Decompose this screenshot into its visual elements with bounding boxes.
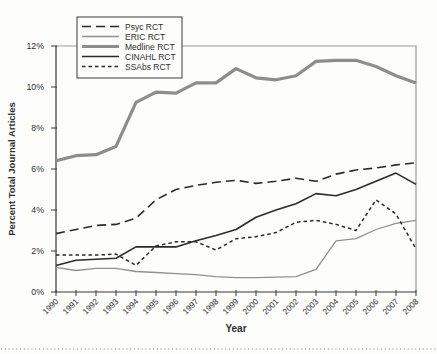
- x-tick-label: 1995: [141, 297, 161, 317]
- x-tick-label: 1994: [121, 297, 141, 317]
- y-tick-label: 2%: [31, 246, 44, 256]
- x-tick-label: 2002: [281, 297, 301, 317]
- x-tick-label: 2001: [261, 297, 281, 317]
- y-tick-label: 10%: [26, 82, 44, 92]
- x-tick-label: 1999: [221, 297, 241, 317]
- legend-label: SSAbs RCT: [125, 62, 171, 72]
- x-tick-label: 2008: [401, 297, 421, 317]
- series-line-psyc-rct: [56, 163, 416, 234]
- y-tick-label: 8%: [31, 123, 44, 133]
- x-tick-label: 1993: [101, 297, 121, 317]
- series-line-cinahl-rct: [56, 173, 416, 265]
- x-tick-label: 2004: [321, 297, 341, 317]
- legend-label: CINAHL RCT: [125, 52, 176, 62]
- legend: Psyc RCTERIC RCTMedline RCTCINAHL RCTSSA…: [77, 17, 182, 78]
- x-tick-label: 1998: [201, 297, 221, 317]
- y-tick-label: 12%: [26, 41, 44, 51]
- x-tick-label: 2000: [241, 297, 261, 317]
- x-tick-label: 1991: [61, 297, 81, 317]
- x-tick-label: 1990: [41, 297, 61, 317]
- legend-label: Medline RCT: [125, 42, 175, 52]
- x-tick-label: 1996: [161, 297, 181, 317]
- legend-label: ERIC RCT: [125, 32, 165, 42]
- x-tick-label: 2007: [381, 297, 401, 317]
- series-line-ssabs-rct: [56, 200, 416, 266]
- x-tick-label: 1997: [181, 297, 201, 317]
- x-tick-label: 1992: [81, 297, 101, 317]
- figure: 0%2%4%6%8%10%12%199019911992199319941995…: [0, 0, 437, 354]
- x-tick-label: 2006: [361, 297, 381, 317]
- legend-label: Psyc RCT: [125, 22, 163, 32]
- y-axis-title: Percent Total Journal Articles: [6, 102, 17, 236]
- y-tick-label: 0%: [31, 287, 44, 297]
- line-chart: 0%2%4%6%8%10%12%199019911992199319941995…: [0, 0, 437, 354]
- y-tick-label: 6%: [31, 164, 44, 174]
- x-axis-title: Year: [225, 323, 246, 334]
- x-tick-label: 2003: [301, 297, 321, 317]
- y-tick-label: 4%: [31, 205, 44, 215]
- x-tick-label: 2005: [341, 297, 361, 317]
